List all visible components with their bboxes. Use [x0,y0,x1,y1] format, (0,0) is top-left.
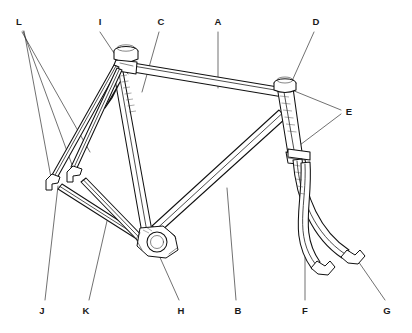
label-C: C [158,16,165,27]
label-I: I [99,16,102,27]
label-D: D [313,16,320,27]
label-J: J [39,305,44,316]
label-L: L [16,16,22,27]
head-tube-top-cup [274,77,296,93]
label-A: A [215,16,222,27]
label-K: K [83,305,90,316]
diagram-canvas: L I C A D E J K H B F G [0,0,412,333]
label-G: G [383,305,390,316]
label-E: E [346,106,352,117]
label-B: B [235,305,242,316]
bicycle-frame-diagram: L I C A D E J K H B F G [0,0,412,333]
label-F: F [302,305,308,316]
label-H: H [178,305,185,316]
